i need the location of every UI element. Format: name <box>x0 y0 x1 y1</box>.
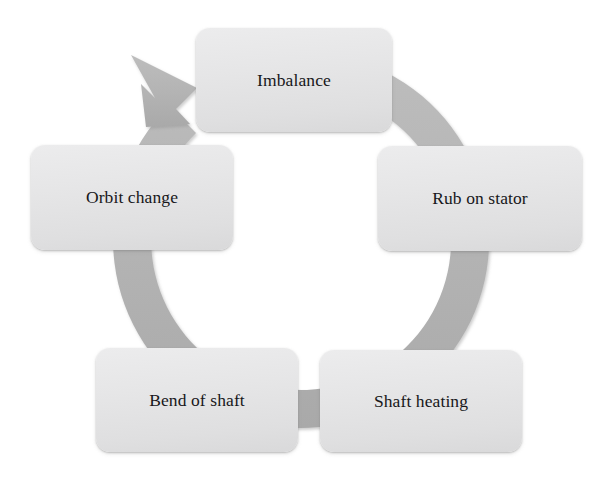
node-orbit-change[interactable]: Orbit change <box>31 145 233 250</box>
node-imbalance-label: Imbalance <box>257 70 331 90</box>
ring-arrowhead-icon <box>131 55 197 127</box>
cycle-diagram: Imbalance Rub on stator Shaft heating Be… <box>0 0 609 482</box>
node-bend-of-shaft-label: Bend of shaft <box>149 390 245 410</box>
node-orbit-change-label: Orbit change <box>86 187 178 207</box>
node-rub-on-stator[interactable]: Rub on stator <box>378 146 582 251</box>
node-imbalance[interactable]: Imbalance <box>196 28 392 132</box>
node-rub-on-stator-label: Rub on stator <box>432 188 528 208</box>
node-shaft-heating-label: Shaft heating <box>374 391 468 411</box>
node-bend-of-shaft[interactable]: Bend of shaft <box>96 348 298 452</box>
node-shaft-heating[interactable]: Shaft heating <box>320 350 522 452</box>
